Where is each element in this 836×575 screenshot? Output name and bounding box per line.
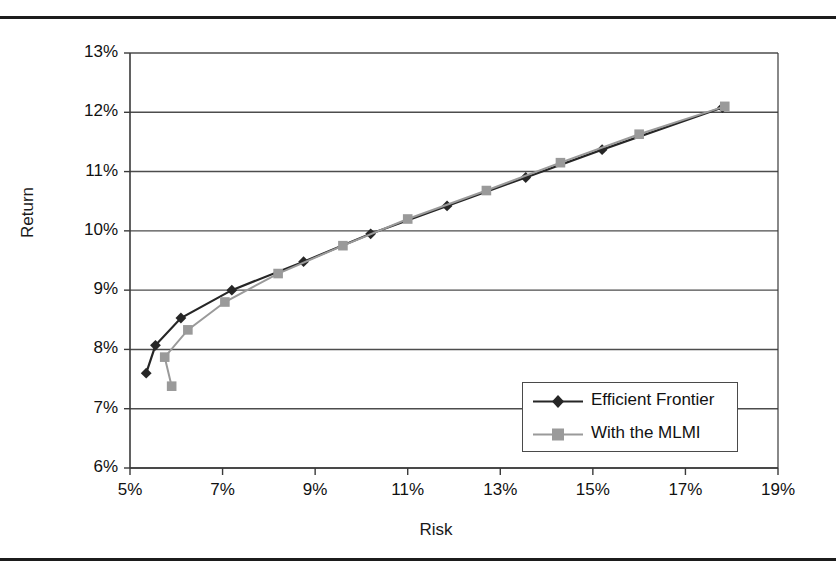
series-with-the-mlmi [160, 102, 730, 391]
data-series-group [141, 102, 730, 391]
data-point-with-the-mlmi [482, 186, 492, 196]
x-tick-label: 13% [470, 480, 530, 500]
page-canvas: 6%7%8%9%10%11%12%13% 5%7%9%11%13%15%17%1… [0, 0, 836, 575]
data-point-with-the-mlmi [338, 241, 348, 251]
data-point-efficient-frontier [226, 285, 237, 296]
legend-item-with-mlmi[interactable]: With the MLMI [523, 418, 739, 451]
y-tick-label: 12% [62, 101, 118, 121]
legend-item-efficient-frontier[interactable]: Efficient Frontier [523, 385, 739, 418]
y-tick-label: 8% [62, 338, 118, 358]
efficient-frontier-chart: 6%7%8%9%10%11%12%13% 5%7%9%11%13%15%17%1… [0, 20, 836, 555]
legend-label-efficient-frontier: Efficient Frontier [591, 390, 714, 410]
data-point-with-the-mlmi [160, 352, 170, 362]
series-line-with-the-mlmi [165, 106, 725, 386]
x-tick-label: 5% [100, 480, 160, 500]
data-point-with-the-mlmi [273, 269, 283, 279]
data-point-with-the-mlmi [556, 158, 566, 168]
series-line-efficient-frontier [146, 108, 722, 374]
data-point-with-the-mlmi [220, 297, 230, 307]
data-point-with-the-mlmi [720, 102, 730, 112]
data-point-with-the-mlmi [634, 129, 644, 139]
legend-label-with-mlmi: With the MLMI [591, 423, 701, 443]
page-rule-bottom [0, 558, 836, 561]
data-point-with-the-mlmi [183, 325, 193, 335]
series-efficient-frontier [141, 102, 728, 378]
legend-swatch-efficient-frontier [531, 385, 585, 418]
x-tick-label: 9% [285, 480, 345, 500]
x-tick-label: 7% [193, 480, 253, 500]
y-tick-label: 11% [62, 161, 118, 181]
y-tick-label: 10% [62, 220, 118, 240]
data-point-with-the-mlmi [167, 381, 177, 391]
y-tick-label: 6% [62, 457, 118, 477]
x-tick-label: 15% [563, 480, 623, 500]
y-tick-label: 7% [62, 398, 118, 418]
data-point-with-the-mlmi [403, 214, 413, 224]
x-axis-title: Risk [0, 520, 836, 540]
x-tick-label: 19% [748, 480, 808, 500]
y-axis-title: Return [18, 187, 38, 238]
legend-swatch-with-mlmi [531, 418, 585, 451]
y-tick-label: 13% [62, 42, 118, 62]
plot-area-svg [0, 20, 836, 555]
x-tick-label: 17% [655, 480, 715, 500]
chart-legend[interactable]: Efficient Frontier With the MLMI [522, 382, 738, 452]
page-rule-top [0, 16, 836, 19]
y-tick-label: 9% [62, 279, 118, 299]
data-point-efficient-frontier [141, 368, 152, 379]
x-tick-label: 11% [378, 480, 438, 500]
